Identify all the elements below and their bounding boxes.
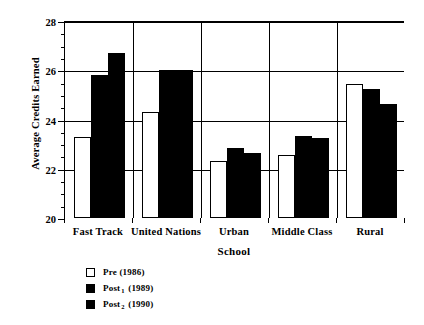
bar-group <box>201 22 269 218</box>
bar[interactable] <box>159 70 176 218</box>
y-tick-major <box>58 22 65 23</box>
bar[interactable] <box>363 89 380 218</box>
y-tick-label: 24 <box>46 115 57 126</box>
x-axis-title: School <box>64 245 404 257</box>
x-category-label-united-nations: United Nations <box>131 226 201 237</box>
legend-item[interactable]: Post2 (1990) <box>86 296 236 312</box>
x-category-label-fast-track: Fast Track <box>73 226 123 237</box>
legend-swatch-black <box>86 300 95 309</box>
legend-label: Post2 (1990) <box>103 299 153 309</box>
bar[interactable] <box>244 153 261 218</box>
x-category-label-urban: Urban <box>219 226 249 237</box>
legend-item[interactable]: Pre (1986) <box>86 264 236 280</box>
legend-swatch-white <box>86 268 95 277</box>
bar[interactable] <box>142 112 159 218</box>
bar[interactable] <box>91 75 108 218</box>
y-tick-label: 20 <box>46 214 57 225</box>
bar[interactable] <box>380 104 397 219</box>
bar[interactable] <box>210 161 227 218</box>
bar[interactable] <box>176 70 193 218</box>
bar-chart-figure: Average Credits Earned 2022242628 Fast T… <box>0 0 424 325</box>
y-tick-label: 28 <box>46 17 57 28</box>
chart-legend: Pre (1986)Post1 (1989)Post2 (1990) <box>86 264 236 312</box>
x-category-label-rural: Rural <box>356 226 383 237</box>
bar-group-bars <box>65 22 133 218</box>
legend-swatch-black <box>86 284 95 293</box>
x-tick <box>404 218 405 223</box>
y-axis-title: Average Credits Earned <box>30 19 41 209</box>
legend-label: Pre (1986) <box>103 267 145 277</box>
y-tick-major <box>58 121 65 122</box>
bar-group <box>133 22 201 218</box>
plot-inner: 2022242628 <box>65 22 404 218</box>
bar[interactable] <box>346 84 363 218</box>
bar[interactable] <box>108 53 125 218</box>
legend-item[interactable]: Post1 (1989) <box>86 280 236 296</box>
bar[interactable] <box>74 137 91 218</box>
x-tick <box>132 218 133 223</box>
bar-group <box>65 22 133 218</box>
y-tick-label: 26 <box>46 66 57 77</box>
y-tick-major <box>58 170 65 171</box>
bar-group <box>269 22 337 218</box>
bar-group-bars <box>337 22 405 218</box>
bar-group <box>337 22 405 218</box>
bar[interactable] <box>227 148 244 218</box>
bar-group-bars <box>269 22 337 218</box>
bar[interactable] <box>278 155 295 218</box>
x-tick <box>268 218 269 223</box>
bar[interactable] <box>295 136 312 218</box>
x-category-label-middle-class: Middle Class <box>271 226 332 237</box>
x-tick <box>64 218 65 223</box>
y-tick-label: 22 <box>46 164 57 175</box>
y-tick-major <box>58 71 65 72</box>
x-axis-tick-marks <box>64 218 404 224</box>
bar[interactable] <box>312 138 329 218</box>
x-axis-category-labels: Fast TrackUnited NationsUrbanMiddle Clas… <box>64 226 404 242</box>
x-tick <box>336 218 337 223</box>
bar-group-bars <box>133 22 201 218</box>
plot-area: 2022242628 <box>64 21 404 218</box>
x-tick <box>200 218 201 223</box>
legend-label: Post1 (1989) <box>103 283 153 293</box>
bar-group-bars <box>201 22 269 218</box>
